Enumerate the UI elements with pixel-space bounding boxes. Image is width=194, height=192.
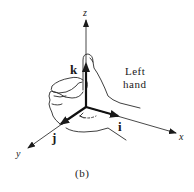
figure-caption: (b) — [75, 167, 89, 180]
x-axis-label: x — [178, 131, 184, 142]
coordinate-axes — [28, 20, 176, 148]
k-vector-label: k — [70, 62, 78, 77]
i-vector — [86, 107, 118, 116]
hand-label-line1: Left — [125, 65, 145, 77]
left-hand-rule-diagram: z x y k i j Left hand (b) — [0, 0, 194, 192]
z-axis-label: z — [82, 7, 87, 18]
diagram-svg: z x y k i j Left hand (b) — [0, 0, 194, 192]
y-axis-label: y — [15, 148, 21, 159]
i-vector-label: i — [118, 119, 122, 134]
hand-label-line2: hand — [123, 78, 146, 90]
j-vector-label: j — [51, 130, 56, 145]
j-vector — [61, 107, 86, 124]
